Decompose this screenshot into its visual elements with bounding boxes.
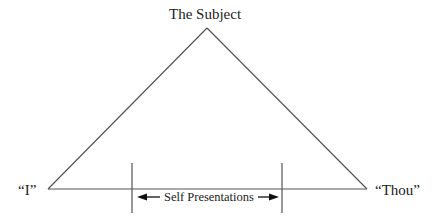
apex-label: The Subject	[169, 7, 241, 22]
left-edge	[48, 28, 207, 189]
left-arrow-icon	[137, 194, 160, 201]
right-arrow-icon	[258, 194, 279, 201]
left-vertex-label: “I”	[18, 183, 36, 198]
right-edge	[207, 28, 367, 189]
right-vertex-label: “Thou”	[375, 183, 420, 198]
range-label: Self Presentations	[164, 191, 254, 204]
